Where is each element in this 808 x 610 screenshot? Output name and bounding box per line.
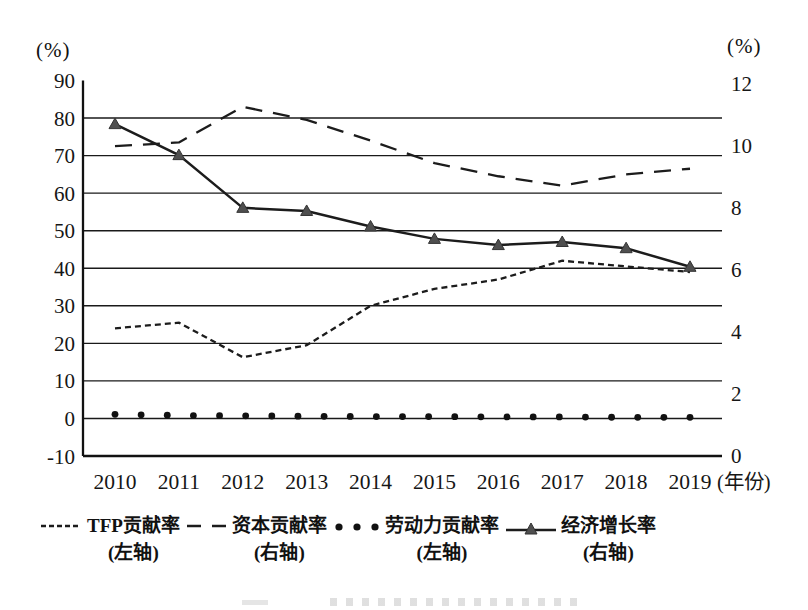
x-axis-tick-label: 2019 (669, 470, 712, 494)
right-axis-tick-label: 0 (731, 444, 742, 468)
labor-dot (530, 414, 537, 421)
legend-label-gdp-growth: 经济增长率 (561, 512, 656, 539)
legend-item-gdp-growth: 经济增长率 (右轴) (506, 512, 656, 566)
right-axis-tick-label: 4 (731, 320, 742, 344)
x-axis-tick-label: 2012 (221, 470, 264, 494)
legend-axis-capital: (右轴) (254, 539, 305, 566)
x-axis-unit-label: (年份) (717, 471, 771, 494)
cropped-caption-fragment (330, 598, 582, 606)
left-axis-tick-label: 60 (54, 182, 75, 206)
long-dash-line-icon (187, 522, 227, 530)
labor-dot (216, 412, 223, 419)
labor-dot (582, 414, 589, 421)
labor-dot (190, 412, 197, 419)
chart-figure: (%) (%) 9080706050403020100-101210864202… (0, 0, 808, 610)
x-axis-tick-label: 2014 (349, 470, 392, 494)
left-axis-tick-label: 20 (54, 332, 75, 356)
legend-label-labor: 劳动力贡献率 (385, 512, 499, 539)
legend-axis-gdp-growth: (右轴) (583, 539, 634, 566)
x-axis-tick-label: 2018 (605, 470, 648, 494)
cropped-caption-fragment-left (242, 600, 268, 605)
left-axis-tick-label: 90 (54, 69, 75, 93)
labor-dot (504, 414, 511, 421)
x-axis-tick-label: 2017 (541, 470, 584, 494)
labor-dot (399, 413, 406, 420)
solid-line-triangle-icon (506, 522, 556, 536)
legend-axis-tfp: (左轴) (108, 539, 159, 566)
labor-dot (347, 413, 354, 420)
labor-dot (373, 413, 380, 420)
x-axis-tick-label: 2013 (285, 470, 328, 494)
legend-item-tfp: TFP贡献率 (左轴) (40, 512, 180, 566)
labor-dot (425, 413, 432, 420)
legend-item-labor: 劳动力贡献率 (左轴) (334, 512, 499, 566)
legend-axis-labor: (左轴) (417, 539, 468, 566)
labor-dot (451, 413, 458, 420)
left-axis-tick-label: 80 (54, 107, 75, 131)
legend-label-tfp: TFP贡献率 (87, 512, 180, 539)
labor-dot (608, 414, 615, 421)
labor-dot (112, 411, 119, 418)
legend: TFP贡献率 (左轴) 资本贡献率 (右轴) 劳动力贡献率 (左轴) (40, 512, 780, 566)
left-axis-tick-label: 50 (54, 219, 75, 243)
left-axis-tick-label: 40 (54, 257, 75, 281)
short-dash-line-icon (40, 522, 82, 530)
labor-dot (138, 411, 145, 418)
gdp-triangle-marker (109, 118, 121, 129)
dots-line-icon (334, 522, 380, 532)
x-axis-tick-label: 2015 (413, 470, 456, 494)
right-axis-tick-label: 10 (731, 134, 752, 158)
left-axis-tick-label: 30 (54, 294, 75, 318)
x-axis-tick-label: 2010 (94, 470, 137, 494)
right-axis-tick-label: 12 (731, 72, 752, 96)
labor-dot (164, 412, 171, 419)
gdp-growth-line (115, 124, 690, 267)
x-axis-tick-label: 2011 (158, 470, 200, 494)
x-axis-tick-label: 2016 (477, 470, 520, 494)
right-axis-tick-label: 2 (731, 382, 742, 406)
right-axis-tick-label: 8 (731, 196, 742, 220)
legend-label-capital: 资本贡献率 (232, 512, 327, 539)
legend-item-capital: 资本贡献率 (右轴) (187, 512, 327, 566)
left-axis-tick-label: 70 (54, 144, 75, 168)
labor-dot (687, 414, 694, 421)
labor-dot (321, 413, 328, 420)
right-axis-tick-label: 6 (731, 258, 742, 282)
labor-dot (478, 413, 485, 420)
labor-dot (634, 414, 641, 421)
labor-dot (242, 412, 249, 419)
left-axis-tick-label: 10 (54, 369, 75, 393)
labor-dot (268, 413, 275, 420)
left-axis-tick-label: 0 (65, 407, 76, 431)
labor-dot (660, 414, 667, 421)
left-axis-tick-label: -10 (47, 445, 75, 469)
labor-dot (556, 414, 563, 421)
labor-dot (295, 413, 302, 420)
